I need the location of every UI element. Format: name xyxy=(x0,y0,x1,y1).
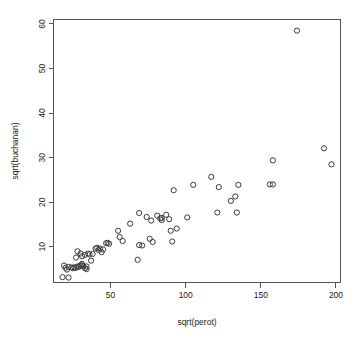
y-axis-ticks xyxy=(49,24,54,247)
y-tick-label: 60 xyxy=(38,19,48,29)
data-point xyxy=(294,28,299,33)
y-axis-tick-labels: 102030405060 xyxy=(38,19,48,252)
data-point xyxy=(215,210,220,215)
data-point xyxy=(73,255,78,260)
data-point xyxy=(60,275,65,280)
x-tick-label: 50 xyxy=(106,290,116,300)
scatter-plot-figure: 50100150200 102030405060 sqrt(perot) sqr… xyxy=(0,0,360,338)
data-point xyxy=(321,146,326,151)
data-point xyxy=(209,174,214,179)
data-point xyxy=(167,217,172,222)
chart-canvas: 50100150200 102030405060 sqrt(perot) sqr… xyxy=(0,0,360,338)
x-axis-title: sqrt(perot) xyxy=(177,317,216,327)
data-point xyxy=(137,210,142,215)
y-tick-label: 30 xyxy=(38,153,48,163)
x-tick-label: 200 xyxy=(329,290,343,300)
data-point xyxy=(168,228,173,233)
data-point xyxy=(116,228,121,233)
y-tick-label: 10 xyxy=(38,242,48,252)
data-point xyxy=(66,275,71,280)
x-axis-tick-labels: 50100150200 xyxy=(106,290,343,300)
y-tick-label: 20 xyxy=(38,197,48,207)
data-point xyxy=(120,238,125,243)
data-point xyxy=(216,185,221,190)
data-point xyxy=(185,215,190,220)
plot-frame xyxy=(54,20,341,283)
data-point xyxy=(174,226,179,231)
data-point xyxy=(171,188,176,193)
y-tick-label: 50 xyxy=(38,64,48,74)
data-point xyxy=(149,218,154,223)
data-point xyxy=(150,239,155,244)
x-tick-label: 100 xyxy=(179,290,193,300)
data-point xyxy=(170,239,175,244)
data-point xyxy=(329,162,334,167)
data-point xyxy=(234,210,239,215)
x-tick-label: 150 xyxy=(254,290,268,300)
data-point xyxy=(135,257,140,262)
data-point xyxy=(144,214,149,219)
data-points-layer xyxy=(60,28,334,280)
y-axis-title: sqrt(buchanan) xyxy=(10,122,20,179)
data-point xyxy=(270,158,275,163)
data-point xyxy=(233,194,238,199)
data-point xyxy=(236,182,241,187)
data-point xyxy=(228,198,233,203)
y-tick-label: 40 xyxy=(38,108,48,118)
x-axis-ticks xyxy=(111,283,336,288)
data-point xyxy=(147,236,152,241)
data-point xyxy=(128,221,133,226)
data-point xyxy=(88,258,93,263)
data-point xyxy=(191,182,196,187)
